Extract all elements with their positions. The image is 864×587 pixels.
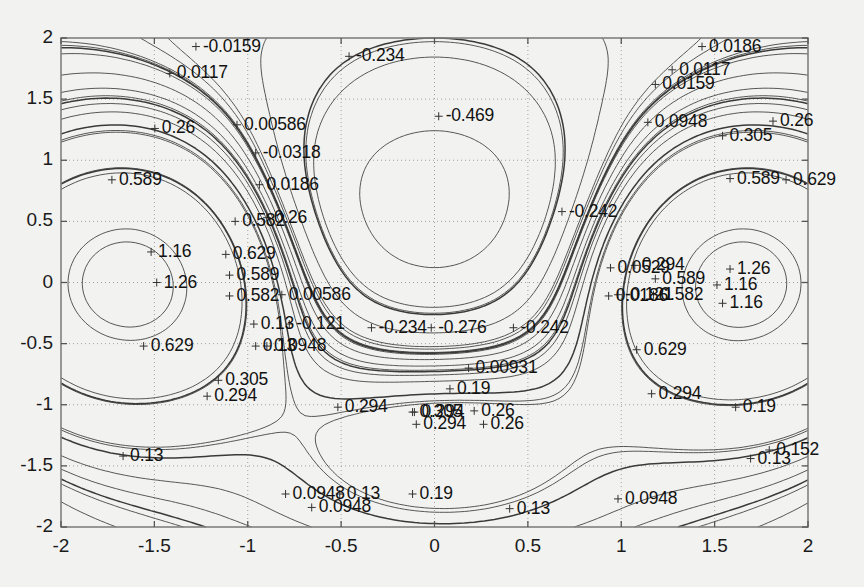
contour-label: 1.16	[730, 292, 763, 313]
contour-label: -0.469	[446, 105, 494, 126]
contour-label: 1.26	[164, 272, 197, 293]
contour-level-14	[61, 479, 206, 527]
contour-label: 0.0948	[319, 496, 371, 517]
contour-label: 0.0948	[625, 488, 677, 509]
contour-label: 0.0948	[655, 111, 707, 132]
contour-label: 0.0117	[177, 62, 228, 83]
contour-label: 1.16	[158, 241, 191, 262]
y-axis-tick-label: 1.5	[0, 87, 53, 109]
y-axis-tick-label: -2	[0, 515, 53, 537]
contour-label: 0.19	[457, 378, 490, 399]
contour-label: 0.629	[233, 243, 276, 264]
contour-label: 0.13	[261, 313, 294, 334]
y-axis-tick-label: -1	[0, 393, 53, 415]
contour-label: 0.13	[758, 448, 791, 469]
contour-level-12	[61, 502, 116, 527]
contour-level-15	[61, 469, 252, 527]
contour-label: 0.13	[517, 498, 550, 519]
contour-label: 0.589	[737, 168, 780, 189]
contour-label: -0.0159	[203, 36, 261, 57]
x-axis-tick-label: 1	[581, 535, 661, 557]
y-axis-tick-label: 1	[0, 148, 53, 170]
contour-label: 0.0186	[266, 174, 318, 195]
contour-label: 0.19	[743, 396, 776, 417]
contour-label: 0.19	[420, 483, 453, 504]
x-axis-tick-label: 0	[395, 535, 475, 557]
contour-label: 0.589	[119, 169, 162, 190]
contour-label: -0.121	[296, 313, 344, 334]
contour-label: 0.26	[491, 413, 524, 434]
contour-label: -0.276	[438, 317, 486, 338]
x-axis-tick-label: -1	[208, 535, 288, 557]
contour-label: 0.582	[237, 285, 280, 306]
y-axis-tick-label: 2	[0, 26, 53, 48]
contour-label: 0.26	[162, 117, 195, 138]
contour-label: 0.0159	[662, 73, 714, 94]
x-axis-tick-label: 0.5	[488, 535, 568, 557]
contour-label: -0.242	[569, 201, 617, 222]
contour-label: 0.294	[423, 413, 466, 434]
x-axis-tick-label: -2	[21, 535, 101, 557]
contour-label: -0.234	[356, 45, 404, 66]
contour-level-22	[61, 173, 242, 399]
contour-level-12	[758, 503, 808, 527]
contour-label: 0.00586	[289, 284, 351, 305]
y-axis-tick-label: -0.5	[0, 332, 53, 354]
contour-label: 0.305	[730, 125, 773, 146]
contour-label: -0.242	[520, 317, 568, 338]
contour-label: 0.629	[644, 339, 687, 360]
x-axis-tick-label: 2	[768, 535, 848, 557]
contour-label: 0.589	[237, 264, 280, 285]
contour-label: 0.00931	[476, 357, 538, 378]
contour-label: 0.582	[660, 284, 703, 305]
contour-label: 0.294	[345, 396, 388, 417]
contour-label: 0.629	[793, 169, 836, 190]
contour-label: 0.629	[151, 335, 194, 356]
figure-canvas: -0.01590.0117-0.2340.01860.01170.01590.2…	[0, 0, 864, 587]
contour-label: 0.26	[780, 110, 813, 131]
contour-label: 0.294	[659, 383, 702, 404]
y-axis-tick-label: 0	[0, 271, 53, 293]
x-axis-tick-label: -0.5	[301, 535, 381, 557]
contour-level-14	[678, 480, 808, 527]
y-axis-tick-label: -1.5	[0, 454, 53, 476]
contour-level-16	[61, 456, 312, 527]
contour-level-3	[304, 38, 565, 315]
contour-label: -0.234	[378, 317, 426, 338]
contour-label: 0.13	[263, 335, 296, 356]
contour-label: 0.26	[274, 207, 307, 228]
x-axis-tick-label: 1.5	[675, 535, 755, 557]
y-axis-tick-label: 0.5	[0, 209, 53, 231]
contour-label: 0.00586	[244, 114, 306, 135]
contour-label: -0.0318	[263, 142, 321, 163]
x-axis-tick-label: -1.5	[114, 535, 194, 557]
contour-label: 0.13	[130, 445, 163, 466]
contour-level-0	[360, 131, 510, 268]
contour-label: 0.294	[214, 385, 257, 406]
contour-label: 0.0186	[709, 36, 761, 57]
